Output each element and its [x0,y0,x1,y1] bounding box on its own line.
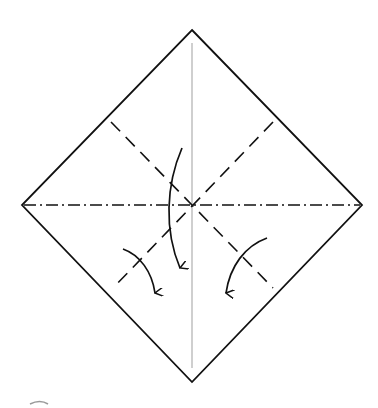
cropped-step-marker [30,402,48,405]
origami-diagram [0,0,378,408]
